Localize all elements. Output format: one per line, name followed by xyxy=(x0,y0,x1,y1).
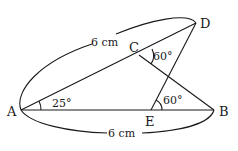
angle-arc-A xyxy=(39,101,41,110)
angle-label-E: 60° xyxy=(163,94,183,107)
point-label-D: D xyxy=(200,16,210,31)
length-label-AD: 6 cm xyxy=(91,36,119,49)
geometry-diagram: A B C D E 25° 60° 60° 6 cm 6 cm xyxy=(0,0,238,151)
point-label-C: C xyxy=(129,40,139,55)
dimension-arc-AD-right xyxy=(116,18,196,34)
angle-label-A: 25° xyxy=(52,97,72,110)
point-label-A: A xyxy=(6,104,17,119)
angle-arc-E xyxy=(156,100,162,110)
length-label-AB: 6 cm xyxy=(108,127,136,140)
point-label-E: E xyxy=(145,114,155,129)
dimension-arc-AB-left xyxy=(21,110,107,133)
angle-label-C: 60° xyxy=(153,50,173,63)
point-label-B: B xyxy=(219,104,229,119)
